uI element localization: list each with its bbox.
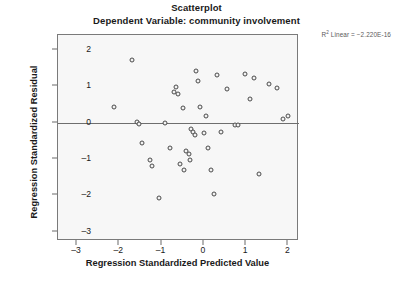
data-point bbox=[147, 158, 152, 163]
data-point bbox=[168, 145, 173, 150]
y-axis-tick-label: 2 bbox=[51, 44, 91, 54]
y-axis-tick-label: –2 bbox=[51, 189, 91, 199]
x-axis-tick-label: 1 bbox=[230, 245, 260, 255]
data-point bbox=[214, 73, 219, 78]
data-point bbox=[150, 163, 155, 168]
data-point bbox=[156, 195, 161, 200]
data-point bbox=[209, 167, 214, 172]
y-axis-tick-label: 0 bbox=[51, 117, 91, 127]
r-squared-annotation: R2 Linear = −2.220E-16 bbox=[322, 30, 391, 38]
x-axis-tick-label: 0 bbox=[188, 245, 218, 255]
data-point bbox=[129, 57, 134, 62]
data-point bbox=[243, 72, 248, 77]
data-point bbox=[137, 121, 142, 126]
data-point bbox=[198, 104, 203, 109]
y-axis-label: Regression Standardized Residual bbox=[29, 32, 39, 252]
x-axis-label: Regression Standardized Predicted Value bbox=[57, 258, 298, 268]
data-point bbox=[267, 82, 272, 87]
data-point bbox=[192, 132, 197, 137]
chart-title: Scatterplot bbox=[0, 2, 393, 14]
y-axis-tick-label: –1 bbox=[51, 153, 91, 163]
data-point bbox=[274, 85, 279, 90]
data-point bbox=[196, 78, 201, 83]
data-point bbox=[173, 85, 178, 90]
chart-title-block: Scatterplot Dependent Variable: communit… bbox=[0, 2, 393, 27]
data-point bbox=[256, 172, 261, 177]
data-point bbox=[176, 92, 181, 97]
data-point bbox=[186, 152, 191, 157]
data-point bbox=[163, 120, 168, 125]
data-point bbox=[180, 105, 185, 110]
data-point bbox=[251, 76, 256, 81]
data-point bbox=[235, 122, 240, 127]
r-squared-value: Linear = −2.220E-16 bbox=[329, 31, 391, 38]
data-point bbox=[111, 105, 116, 110]
data-point bbox=[178, 162, 183, 167]
chart-subtitle: Dependent Variable: community involvemen… bbox=[0, 14, 393, 27]
x-axis-tick-label: –2 bbox=[103, 245, 133, 255]
data-point bbox=[280, 116, 285, 121]
data-point bbox=[206, 146, 211, 151]
data-point bbox=[218, 129, 223, 134]
data-point bbox=[211, 191, 216, 196]
x-axis-tick-label: –1 bbox=[146, 245, 176, 255]
y-axis-tick-label: 1 bbox=[51, 80, 91, 90]
data-point bbox=[201, 131, 206, 136]
data-point bbox=[247, 96, 252, 101]
data-point bbox=[187, 158, 192, 163]
data-point bbox=[225, 86, 230, 91]
data-point bbox=[139, 141, 144, 146]
data-point bbox=[181, 167, 186, 172]
data-point bbox=[193, 68, 198, 73]
x-axis-tick-label: –3 bbox=[61, 245, 91, 255]
x-axis-tick-label: 2 bbox=[272, 245, 302, 255]
data-point bbox=[203, 114, 208, 119]
data-point bbox=[286, 113, 291, 118]
plot-area bbox=[57, 34, 298, 240]
y-axis-tick-label: –3 bbox=[51, 226, 91, 236]
zero-reference-line bbox=[58, 123, 299, 124]
scatterplot-figure: Scatterplot Dependent Variable: communit… bbox=[0, 0, 393, 296]
